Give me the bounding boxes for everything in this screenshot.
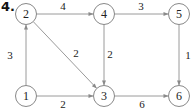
node-4: 4	[94, 4, 115, 25]
node-label: 3	[101, 89, 107, 103]
node-6: 6	[169, 86, 190, 107]
weighted-directed-graph: 32422316 123456	[0, 0, 192, 112]
node-1: 1	[16, 86, 37, 107]
node-3: 3	[94, 86, 115, 107]
edge-weight-5-6: 1	[185, 49, 191, 61]
edge-weight-1-3: 2	[60, 98, 66, 110]
node-label: 4	[101, 7, 107, 21]
node-label: 6	[176, 89, 182, 103]
node-label: 5	[176, 7, 182, 21]
edge-weight-2-3: 2	[73, 47, 79, 59]
edge-weight-4-5: 3	[138, 0, 144, 12]
edge-weight-2-4: 4	[60, 0, 66, 12]
edge-weight-3-6: 6	[139, 98, 145, 110]
node-2: 2	[16, 4, 37, 25]
node-5: 5	[169, 4, 190, 25]
edge-weight-4-3: 2	[107, 48, 113, 60]
edge-weight-1-2: 3	[7, 49, 13, 61]
edge-2-to-3	[33, 22, 96, 88]
node-label: 1	[23, 89, 29, 103]
node-label: 2	[23, 7, 29, 21]
